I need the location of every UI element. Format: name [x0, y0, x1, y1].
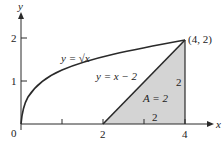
x-axis-label: x: [215, 118, 221, 130]
y-axis-arrow-icon: [18, 12, 24, 19]
sqrt-curve-label: y = √x: [60, 52, 90, 64]
origin-label: 0: [11, 127, 17, 139]
y-tick-label-1: 1: [11, 75, 17, 87]
height-label: 2: [176, 76, 182, 88]
y-tick-label-2: 2: [11, 32, 17, 44]
x-axis-arrow-icon: [207, 121, 214, 127]
y-axis-label: y: [17, 0, 23, 12]
point-label: (4, 2): [188, 33, 212, 46]
x-tick-label-4: 4: [182, 128, 188, 140]
base-label: 2: [152, 111, 158, 123]
x-tick-label-2: 2: [100, 128, 106, 140]
area-label: A = 2: [142, 92, 168, 104]
line-curve-label: y = x − 2: [95, 70, 138, 82]
area-diagram: y x 0 2 4 1 2 y = √x y = x − 2 (4, 2) A …: [0, 0, 224, 148]
